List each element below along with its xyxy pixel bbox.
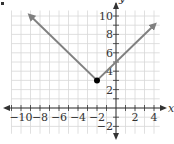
- x-axis-arrow-right: [160, 105, 167, 111]
- x-tick-label: 4: [151, 111, 158, 124]
- x-tick-label: −6: [51, 111, 67, 124]
- function-segment: [31, 16, 98, 80]
- y-tick-label: 2: [106, 84, 113, 97]
- x-tick-label: −8: [32, 111, 48, 124]
- y-tick-label: 10: [99, 10, 113, 23]
- y-tick-label: 8: [106, 28, 113, 41]
- x-tick-label: 2: [132, 111, 139, 124]
- absolute-value-graph: −10−8−6−4−224−2246810 x y: [0, 0, 174, 144]
- series: [31, 16, 155, 83]
- y-tick-label: 6: [106, 47, 113, 60]
- vertex-point: [94, 77, 100, 83]
- x-tick-label: −4: [70, 111, 86, 124]
- y-tick-label: −2: [97, 120, 113, 133]
- x-tick-label: −10: [9, 111, 32, 124]
- y-axis-arrow-bottom: [113, 133, 119, 140]
- y-axis-label: y: [118, 0, 126, 5]
- x-axis-label: x: [168, 102, 174, 115]
